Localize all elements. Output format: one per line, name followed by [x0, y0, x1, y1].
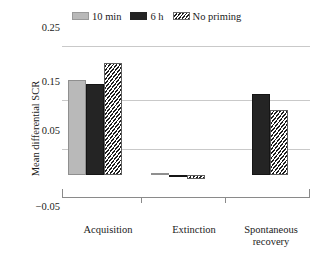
- bar-spontaneous-recovery-no-priming: [270, 110, 288, 175]
- legend-label-no-priming: No priming: [193, 11, 242, 22]
- x-category-label-extinction: Extinction: [154, 224, 234, 236]
- legend-item-10min: 10 min: [72, 11, 121, 22]
- x-axis-line: [62, 197, 310, 198]
- y-axis-tick-labels: 0.25 0.15 0.05 −0.05: [18, 0, 60, 260]
- x-category-label-spontaneous-recovery-line2: recovery: [232, 236, 310, 248]
- bar-spontaneous-recovery-6-h: [252, 94, 270, 174]
- legend-swatch-6h-icon: [130, 12, 147, 20]
- chart-legend: 10 min 6 h No priming: [72, 8, 312, 24]
- x-category-label-spontaneous-recovery-line1: Spontaneous: [232, 224, 310, 236]
- x-axis-category-labels: Acquisition Extinction Spontaneous recov…: [62, 224, 310, 256]
- bar-extinction-10-min: [151, 173, 169, 175]
- bar-acquisition-6-h: [86, 84, 104, 175]
- plot-area: [62, 40, 310, 198]
- legend-label-6h: 6 h: [150, 11, 163, 22]
- x-category-label-acquisition: Acquisition: [62, 224, 154, 236]
- x-axis-left-cap: [62, 189, 63, 198]
- x-axis-tick-2: [225, 197, 226, 203]
- x-axis-tick-1: [141, 197, 142, 203]
- bar-extinction-no-priming: [187, 175, 205, 179]
- y-tick-label-minus-0-05: −0.05: [20, 201, 60, 212]
- gridline-0-25: [62, 46, 310, 47]
- figure-container: 10 min 6 h No priming Mean differential …: [0, 0, 317, 260]
- legend-item-6h: 6 h: [130, 11, 163, 22]
- bar-extinction-6-h: [169, 175, 187, 177]
- y-tick-label-0-15: 0.15: [20, 76, 60, 87]
- legend-swatch-10min-icon: [72, 12, 89, 20]
- bar-acquisition-no-priming: [104, 63, 122, 175]
- y-tick-label-0-05: 0.05: [20, 125, 60, 136]
- y-tick-label-0-25: 0.25: [20, 22, 60, 33]
- legend-swatch-no-priming-icon: [173, 12, 190, 20]
- bar-acquisition-10-min: [68, 80, 86, 175]
- x-axis-right-cap: [309, 189, 310, 198]
- legend-label-10min: 10 min: [92, 11, 121, 22]
- legend-item-no-priming: No priming: [173, 11, 242, 22]
